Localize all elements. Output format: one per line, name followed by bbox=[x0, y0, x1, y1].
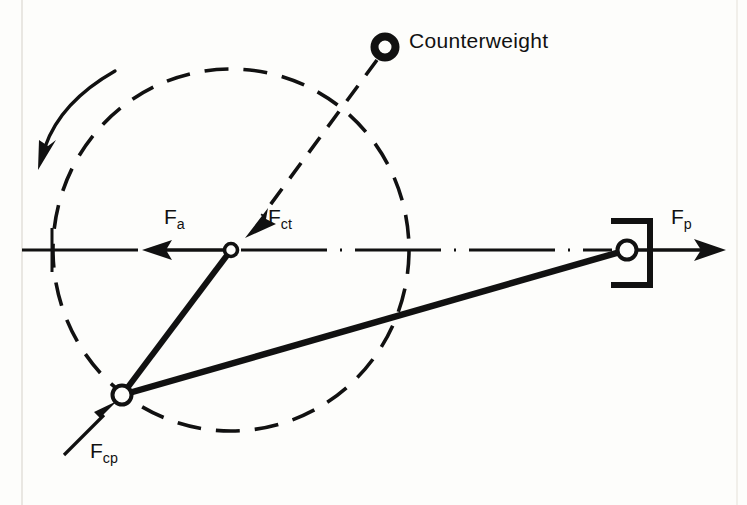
rotation-arrow-icon bbox=[38, 71, 115, 170]
force-p-subscript: p bbox=[684, 216, 692, 232]
force-ct-subscript: ct bbox=[281, 216, 292, 232]
force-counter-tangential-label: Fct bbox=[268, 206, 292, 227]
counterweight-ring-icon bbox=[375, 37, 396, 58]
force-axial-symbol: F bbox=[164, 205, 177, 228]
force-counterweight-line bbox=[245, 60, 377, 238]
force-axial-arrow bbox=[142, 240, 225, 260]
force-crankpin-label: Fcp bbox=[90, 440, 118, 461]
piston-pin-icon bbox=[618, 241, 637, 260]
force-ct-symbol: F bbox=[268, 205, 281, 228]
crank-pin-icon bbox=[113, 386, 132, 405]
force-p-symbol: F bbox=[671, 205, 684, 228]
crank-arm bbox=[122, 250, 231, 395]
counterweight-label: Counterweight bbox=[409, 30, 548, 51]
force-axial-label: Fa bbox=[164, 206, 185, 227]
crank-center-pin-icon bbox=[225, 244, 238, 257]
engine-force-diagram bbox=[0, 0, 747, 505]
diagram-canvas: Counterweight Fa Fct Fp Fcp bbox=[0, 0, 747, 505]
force-cp-subscript: cp bbox=[103, 450, 118, 466]
connecting-rod bbox=[122, 250, 627, 395]
force-piston-label: Fp bbox=[671, 206, 692, 227]
force-cp-symbol: F bbox=[90, 439, 103, 462]
force-axial-subscript: a bbox=[177, 216, 185, 232]
force-piston-arrow bbox=[633, 239, 726, 261]
